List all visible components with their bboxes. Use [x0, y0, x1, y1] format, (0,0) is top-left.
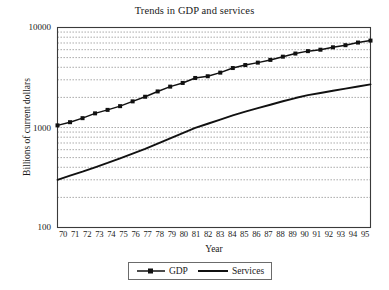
series-group [56, 39, 373, 180]
data-point-marker [118, 104, 122, 108]
data-point-marker [193, 76, 197, 80]
data-point-marker [256, 61, 260, 65]
data-point-marker [93, 111, 97, 115]
x-tick-label: 85 [238, 229, 250, 239]
series-line-gdp [58, 41, 371, 126]
chart-legend[interactable]: GDP Services [128, 262, 272, 280]
data-point-marker [268, 58, 272, 62]
x-tick-label: 78 [154, 229, 166, 239]
x-tick-label: 95 [359, 229, 371, 239]
x-tick-label: 81 [190, 229, 202, 239]
data-point-marker [56, 123, 60, 127]
x-tick-label: 82 [202, 229, 214, 239]
data-point-marker [218, 71, 222, 75]
data-point-marker [331, 45, 335, 49]
x-tick-label: 92 [323, 229, 335, 239]
data-point-marker [356, 41, 360, 45]
legend-entry-services[interactable]: Services [197, 266, 264, 276]
x-tick-label: 89 [286, 229, 298, 239]
x-axis-label: Year [57, 244, 371, 254]
data-point-marker [293, 52, 297, 56]
chart-figure: Trends in GDP and services Billions of c… [0, 0, 389, 290]
legend-swatch-gdp [136, 266, 166, 276]
x-tick-label: 70 [57, 229, 69, 239]
x-axis-tick-labels: 7071727374757677787980818283848586878889… [57, 229, 371, 242]
data-point-marker [306, 49, 310, 53]
data-point-marker [68, 120, 72, 124]
data-point-marker [81, 116, 85, 120]
x-tick-label: 93 [335, 229, 347, 239]
x-tick-label: 76 [129, 229, 141, 239]
gridlines-group [58, 32, 371, 227]
data-point-marker [243, 63, 247, 67]
data-point-marker [143, 95, 147, 99]
x-tick-label: 80 [178, 229, 190, 239]
data-point-marker [318, 48, 322, 52]
x-tick-label: 84 [226, 229, 238, 239]
x-tick-label: 77 [142, 229, 154, 239]
data-point-marker [231, 66, 235, 70]
data-point-marker [369, 39, 373, 43]
data-point-marker [206, 74, 210, 78]
x-tick-label: 79 [166, 229, 178, 239]
legend-label-services: Services [232, 266, 264, 276]
x-tick-label: 90 [299, 229, 311, 239]
x-tick-label: 72 [81, 229, 93, 239]
x-tick-label: 75 [117, 229, 129, 239]
legend-entry-gdp[interactable]: GDP [136, 266, 188, 276]
x-tick-label: 74 [105, 229, 117, 239]
x-tick-label: 87 [262, 229, 274, 239]
x-tick-label: 71 [69, 229, 81, 239]
legend-label-gdp: GDP [169, 266, 188, 276]
data-point-marker [106, 108, 110, 112]
data-point-marker [168, 85, 172, 89]
x-tick-label: 73 [93, 229, 105, 239]
x-tick-label: 91 [311, 229, 323, 239]
x-tick-label: 88 [274, 229, 286, 239]
data-point-marker [343, 43, 347, 47]
x-tick-label: 94 [347, 229, 359, 239]
data-point-marker [156, 89, 160, 93]
data-point-marker [181, 81, 185, 85]
data-point-marker [281, 55, 285, 59]
x-tick-label: 86 [250, 229, 262, 239]
legend-swatch-services [197, 266, 229, 276]
data-point-marker [131, 99, 135, 103]
x-tick-label: 83 [214, 229, 226, 239]
